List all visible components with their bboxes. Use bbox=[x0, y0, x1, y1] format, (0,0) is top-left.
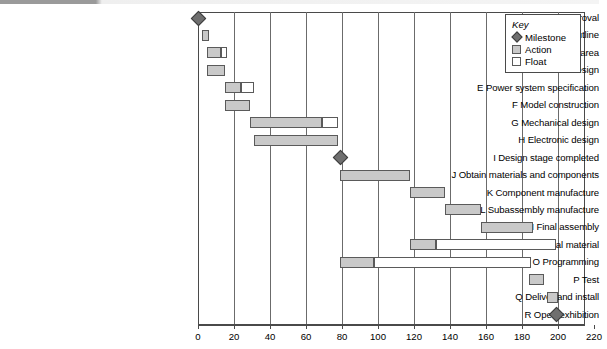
legend-label-float: Float bbox=[525, 56, 546, 67]
x-tick-120 bbox=[414, 325, 415, 329]
legend: Key Milestone Action Float bbox=[505, 14, 581, 73]
x-tick-40 bbox=[270, 325, 271, 329]
legend-item-milestone: Milestone bbox=[512, 31, 575, 43]
float-bar-g bbox=[322, 117, 338, 128]
milestone-diamond-icon bbox=[511, 31, 522, 42]
task-label-p: P Test bbox=[403, 275, 599, 285]
x-tick-label-140: 140 bbox=[430, 331, 470, 342]
gridline-60 bbox=[306, 12, 307, 324]
x-tick-220 bbox=[594, 325, 595, 329]
action-bar-l bbox=[445, 204, 481, 215]
x-tick-160 bbox=[486, 325, 487, 329]
x-tick-label-200: 200 bbox=[538, 331, 578, 342]
x-tick-label-40: 40 bbox=[250, 331, 290, 342]
x-tick-label-60: 60 bbox=[286, 331, 326, 342]
action-bar-o bbox=[340, 257, 374, 268]
gridline-80 bbox=[342, 12, 343, 324]
x-tick-label-160: 160 bbox=[466, 331, 506, 342]
action-bar-n bbox=[410, 239, 435, 250]
legend-item-action: Action bbox=[512, 43, 575, 55]
action-bar-m bbox=[481, 222, 533, 233]
action-bar-d bbox=[207, 65, 225, 76]
x-tick-60 bbox=[306, 325, 307, 329]
float-box-icon bbox=[512, 57, 521, 66]
action-bar-g bbox=[250, 117, 322, 128]
x-tick-140 bbox=[450, 325, 451, 329]
legend-title: Key bbox=[512, 19, 575, 30]
x-tick-100 bbox=[378, 325, 379, 329]
x-tick-0 bbox=[198, 325, 199, 329]
action-bar-p bbox=[529, 274, 543, 285]
task-label-e: E Power system specification bbox=[403, 83, 599, 93]
action-bar-j bbox=[340, 170, 410, 181]
float-bar-o bbox=[374, 257, 531, 268]
task-label-f: F Model construction bbox=[403, 100, 599, 110]
x-tick-80 bbox=[342, 325, 343, 329]
action-bar-k bbox=[410, 187, 444, 198]
action-bar-b bbox=[202, 30, 209, 41]
gridline-40 bbox=[270, 12, 271, 324]
legend-label-milestone: Milestone bbox=[525, 32, 566, 43]
task-label-g: G Mechanical design bbox=[403, 118, 599, 128]
task-label-h: H Electronic design bbox=[403, 135, 599, 145]
float-bar-e bbox=[241, 82, 254, 93]
x-tick-label-20: 20 bbox=[214, 331, 254, 342]
x-tick-label-100: 100 bbox=[358, 331, 398, 342]
task-label-j: J Obtain materials and components bbox=[403, 170, 599, 180]
x-tick-180 bbox=[522, 325, 523, 329]
legend-label-action: Action bbox=[525, 44, 552, 55]
x-tick-20 bbox=[234, 325, 235, 329]
x-tick-label-180: 180 bbox=[502, 331, 542, 342]
action-bar-f bbox=[225, 100, 250, 111]
action-bar-c bbox=[207, 47, 221, 58]
action-bar-q bbox=[547, 292, 558, 303]
action-bar-h bbox=[254, 135, 339, 146]
float-bar-n bbox=[436, 239, 557, 250]
legend-item-float: Float bbox=[512, 55, 575, 67]
x-tick-label-220: 220 bbox=[574, 331, 607, 342]
task-label-l: L Subassembly manufacture bbox=[403, 205, 599, 215]
x-tick-label-80: 80 bbox=[322, 331, 362, 342]
x-tick-label-0: 0 bbox=[178, 331, 218, 342]
gridline-20 bbox=[234, 12, 235, 324]
x-tick-200 bbox=[558, 325, 559, 329]
task-label-r: R Open exhibition bbox=[403, 310, 599, 320]
task-label-i: I Design stage completed bbox=[403, 153, 599, 163]
x-tick-label-120: 120 bbox=[394, 331, 434, 342]
x-axis-line bbox=[198, 325, 585, 326]
action-bar-e bbox=[225, 82, 241, 93]
action-box-icon bbox=[512, 45, 521, 54]
float-bar-c bbox=[221, 47, 226, 58]
gridline-100 bbox=[378, 12, 379, 324]
task-label-q: Q Deliver and install bbox=[403, 292, 599, 302]
